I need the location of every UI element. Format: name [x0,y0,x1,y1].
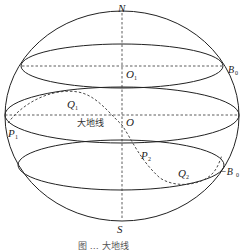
label-p2: P 2 [140,149,151,162]
svg-text:Q: Q [67,98,75,110]
label-neg-b0: −B 0 [220,166,239,178]
svg-text:0: 0 [235,70,238,76]
figure-caption: 图 … 大地线 [78,240,129,250]
svg-text:P: P [140,149,148,161]
svg-text:1: 1 [15,134,18,140]
label-south: S [117,223,123,235]
svg-text:1: 1 [75,105,78,111]
svg-text:B: B [228,64,234,75]
label-o1: O 1 [126,68,137,81]
svg-text:2: 2 [186,174,189,180]
label-o: O [126,116,134,128]
geodesic-diagram: N S O 1 O B 0 −B 0 P 1 Q 1 P 2 Q 2 大地线 图… [0,0,245,250]
svg-text:O: O [126,68,134,80]
svg-text:2: 2 [148,156,151,162]
label-b0: B 0 [228,64,238,76]
label-north: N [117,2,126,14]
svg-text:1: 1 [134,75,137,81]
svg-text:Q: Q [178,167,186,179]
svg-text:P: P [7,127,15,139]
svg-text:0: 0 [236,172,239,178]
label-q2: Q 2 [178,167,189,180]
parallel-neg-b0 [18,140,224,190]
svg-text:−B: −B [220,166,233,177]
label-q1: Q 1 [67,98,78,111]
label-geodesic: 大地线 [77,117,104,128]
label-p1: P 1 [7,127,18,140]
